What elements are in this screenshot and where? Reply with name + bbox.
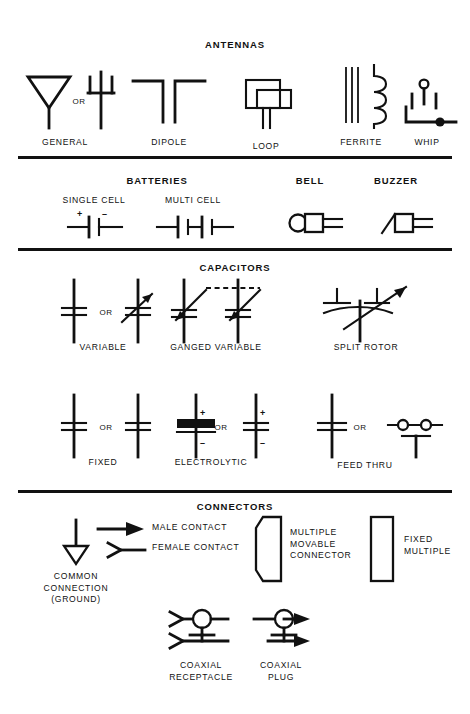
capacitor-ganged-variable-icon — [168, 272, 270, 346]
caption-ganged-variable: GANGED VARIABLE — [170, 342, 262, 352]
capacitor-feed-thru-or-label: OR — [354, 423, 367, 432]
male-contact-icon — [96, 521, 146, 537]
ground-common-connection-icon — [57, 518, 95, 566]
svg-text:+: + — [200, 408, 205, 418]
section-title-connectors: CONNECTORS — [197, 501, 273, 512]
section-title-antennas: ANTENNAS — [205, 39, 265, 50]
svg-text:+: + — [77, 209, 82, 219]
caption-split-rotor: SPLIT ROTOR — [334, 342, 399, 352]
section-title-batteries: BATTERIES — [126, 175, 187, 186]
buzzer-icon — [378, 210, 434, 236]
caption-electrolytic: ELECTROLYTIC — [175, 457, 248, 467]
symbols-chart-sheet: ANTENNAS OR GENERAL DIPOLE LOOP — [0, 0, 470, 714]
caption-loop: LOOP — [253, 141, 280, 151]
capacitor-electrolytic-or-label: OR — [215, 423, 228, 432]
divider-rule-3 — [18, 490, 452, 493]
caption-dipole: DIPOLE — [151, 137, 187, 147]
battery-multi-cell-icon — [155, 212, 237, 236]
antenna-loop-icon — [243, 76, 303, 130]
label-fixed-multiple: FIXED MULTIPLE — [404, 534, 451, 557]
caption-coaxial-receptacle: COAXIAL RECEPTACLE — [169, 660, 233, 683]
svg-text:–: – — [102, 209, 107, 219]
multiple-movable-connector-icon — [253, 515, 285, 583]
caption-whip: WHIP — [414, 137, 439, 147]
antenna-general-or-label: OR — [73, 97, 86, 106]
battery-single-cell-icon: + – — [66, 208, 128, 238]
svg-text:–: – — [200, 438, 205, 448]
label-female-contact: FEMALE CONTACT — [152, 542, 239, 552]
capacitor-variable-or-label: OR — [100, 308, 113, 317]
coaxial-plug-icon — [250, 608, 316, 654]
svg-text:+: + — [260, 408, 265, 418]
caption-variable: VARIABLE — [80, 342, 127, 352]
caption-general: GENERAL — [42, 137, 88, 147]
capacitor-fixed-or-label: OR — [100, 423, 113, 432]
bell-icon — [288, 210, 344, 236]
label-multiple-movable-connector: MULTIPLE MOVABLE CONNECTOR — [290, 527, 352, 562]
caption-common-connection: COMMON CONNECTION (GROUND) — [44, 571, 109, 606]
section-title-buzzer: BUZZER — [374, 175, 418, 186]
antenna-whip-icon — [400, 77, 460, 129]
fixed-multiple-icon — [367, 515, 397, 583]
capacitor-split-rotor-icon — [318, 281, 418, 343]
caption-feed-thru: FEED THRU — [337, 460, 392, 470]
antenna-ferrite-icon — [341, 62, 389, 130]
female-contact-icon — [105, 541, 147, 559]
caption-ferrite: FERRITE — [340, 137, 382, 147]
divider-rule-1 — [18, 156, 452, 159]
label-male-contact: MALE CONTACT — [152, 522, 227, 532]
caption-single-cell: SINGLE CELL — [62, 195, 125, 205]
antenna-dipole-icon — [131, 78, 207, 126]
antenna-general-icon — [24, 70, 118, 132]
capacitor-feed-thru-icon — [310, 393, 444, 461]
coaxial-receptacle-icon — [166, 608, 232, 654]
section-title-bell: BELL — [296, 175, 324, 186]
svg-text:–: – — [260, 438, 265, 448]
caption-fixed: FIXED — [89, 457, 118, 467]
caption-multi-cell: MULTI CELL — [165, 195, 221, 205]
caption-coaxial-plug: COAXIAL PLUG — [260, 660, 302, 683]
divider-rule-2 — [18, 248, 452, 251]
